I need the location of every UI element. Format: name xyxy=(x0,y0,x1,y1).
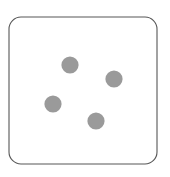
pip-top-left xyxy=(61,56,78,73)
die-illustration xyxy=(0,0,170,177)
die-figure-canvas: 4 xyxy=(0,0,170,177)
die-outline xyxy=(9,17,157,164)
pip-bottom-right xyxy=(87,112,104,129)
pip-top-right xyxy=(105,70,122,87)
pip-bottom-left xyxy=(44,95,61,112)
